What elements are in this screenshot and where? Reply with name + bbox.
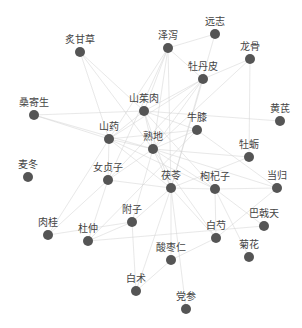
node-label: 巴戟天 <box>249 207 279 219</box>
node-label: 牡丹皮 <box>188 60 218 72</box>
node-circle[interactable] <box>192 125 202 135</box>
node-circle[interactable] <box>166 255 176 265</box>
node-label: 炙甘草 <box>65 33 95 45</box>
graph-node[interactable]: 党参 <box>176 290 196 314</box>
node-label: 麦冬 <box>18 158 38 170</box>
node-circle[interactable] <box>210 29 220 39</box>
node-circle[interactable] <box>43 230 53 240</box>
edge <box>108 139 109 180</box>
node-label: 桑寄生 <box>19 96 49 108</box>
node-circle[interactable] <box>244 152 254 162</box>
node-label: 杜仲 <box>78 222 98 234</box>
graph-node[interactable]: 白术 <box>126 272 146 296</box>
edge <box>171 188 215 189</box>
node-label: 酸枣仁 <box>156 241 186 253</box>
node-circle[interactable] <box>139 106 149 116</box>
edge <box>108 180 171 188</box>
graph-node[interactable]: 熟地 <box>143 130 163 154</box>
node-circle[interactable] <box>211 233 221 243</box>
node-circle[interactable] <box>23 172 33 182</box>
graph-node[interactable]: 麦冬 <box>18 158 38 182</box>
edge <box>144 111 280 121</box>
edge <box>215 188 277 189</box>
node-circle[interactable] <box>272 183 282 193</box>
graph-node[interactable]: 菊花 <box>239 238 259 262</box>
node-label: 白芍 <box>206 219 226 231</box>
node-label: 枸杞子 <box>200 170 230 182</box>
graph-node[interactable]: 黄芪 <box>270 102 290 126</box>
node-circle[interactable] <box>198 74 208 84</box>
node-circle[interactable] <box>166 183 176 193</box>
node-circle[interactable] <box>210 184 220 194</box>
graph-node[interactable]: 龙骨 <box>240 40 260 64</box>
edge <box>34 111 144 115</box>
edge <box>153 149 249 157</box>
graph-node[interactable]: 山茱肉 <box>129 92 159 116</box>
node-circle[interactable] <box>103 175 113 185</box>
edge-layer <box>34 34 280 309</box>
node-circle[interactable] <box>104 134 114 144</box>
node-circle[interactable] <box>259 221 269 231</box>
node-label: 山药 <box>99 121 119 132</box>
node-label: 远志 <box>205 15 225 27</box>
node-label: 附子 <box>122 203 142 215</box>
node-circle[interactable] <box>245 54 255 64</box>
node-label: 龙骨 <box>240 40 260 52</box>
node-circle[interactable] <box>127 217 137 227</box>
graph-node[interactable]: 当归 <box>267 169 287 193</box>
edge <box>108 48 168 180</box>
graph-node[interactable]: 炙甘草 <box>65 33 95 57</box>
graph-node[interactable]: 肉桂 <box>38 216 58 240</box>
graph-node[interactable]: 桑寄生 <box>19 96 49 120</box>
node-label: 女贞子 <box>93 161 123 173</box>
node-label: 山茱肉 <box>129 92 159 104</box>
node-layer: 炙甘草泽泻远志龙骨牡丹皮桑寄生山茱肉黄芪牛膝山药熟地牡蛎麦冬女贞子茯苓枸杞子当归… <box>18 15 290 314</box>
node-circle[interactable] <box>29 110 39 120</box>
node-label: 茯苓 <box>161 169 181 181</box>
edge <box>34 115 109 139</box>
node-circle[interactable] <box>131 286 141 296</box>
node-label: 菊花 <box>239 238 259 250</box>
node-label: 黄芪 <box>270 102 290 114</box>
node-circle[interactable] <box>83 236 93 246</box>
node-label: 党参 <box>176 290 196 302</box>
node-label: 牡蛎 <box>239 138 259 150</box>
graph-node[interactable]: 泽泻 <box>158 29 178 53</box>
node-circle[interactable] <box>163 43 173 53</box>
node-label: 熟地 <box>143 130 163 142</box>
node-label: 牛膝 <box>187 111 207 123</box>
node-label: 当归 <box>267 169 287 181</box>
node-label: 肉桂 <box>38 216 58 228</box>
node-label: 白术 <box>126 272 146 284</box>
node-circle[interactable] <box>148 144 158 154</box>
node-circle[interactable] <box>244 252 254 262</box>
graph-node[interactable]: 巴戟天 <box>249 207 279 231</box>
node-circle[interactable] <box>181 304 191 314</box>
graph-node[interactable]: 牡丹皮 <box>188 60 218 84</box>
herb-network-graph: 炙甘草泽泻远志龙骨牡丹皮桑寄生山茱肉黄芪牛膝山药熟地牡蛎麦冬女贞子茯苓枸杞子当归… <box>0 0 302 328</box>
node-circle[interactable] <box>75 47 85 57</box>
node-circle[interactable] <box>275 116 285 126</box>
edge <box>153 59 250 149</box>
graph-node[interactable]: 远志 <box>205 15 225 39</box>
node-label: 泽泻 <box>158 29 178 41</box>
